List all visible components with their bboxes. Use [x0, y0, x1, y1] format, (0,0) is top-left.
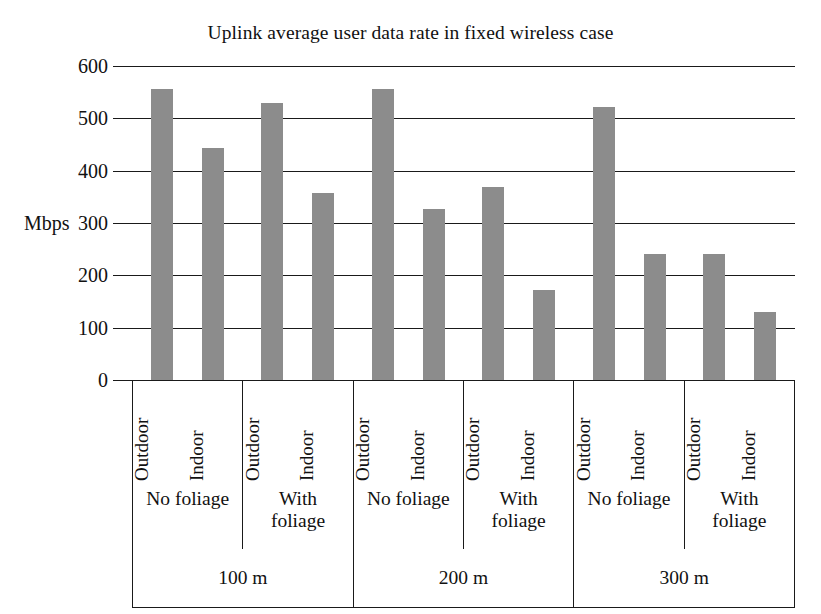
gridline: [132, 66, 795, 67]
y-axis-tick-label: 0: [98, 370, 108, 390]
category-axis-table: OutdoorIndoorOutdoorIndoorOutdoorIndoorO…: [132, 380, 795, 608]
gridline: [132, 328, 795, 329]
foliage-label: No foliage: [588, 488, 671, 510]
y-axis-tick-label: 400: [78, 161, 108, 181]
location-cell: Outdoor: [684, 381, 740, 485]
location-cell: Indoor: [519, 381, 574, 485]
location-label: Indoor: [518, 430, 537, 481]
y-axis-tick: [113, 380, 132, 381]
location-label: Outdoor: [574, 418, 593, 481]
bar: [312, 193, 334, 380]
bar: [423, 209, 445, 380]
bar: [593, 107, 615, 380]
location-cell: Outdoor: [133, 381, 188, 485]
bar: [372, 89, 394, 380]
location-label: Indoor: [297, 430, 316, 481]
y-axis-tick-label: 600: [78, 56, 108, 76]
location-cell: Outdoor: [242, 381, 298, 485]
gridline: [132, 171, 795, 172]
location-label: Indoor: [408, 430, 427, 481]
distance-cell: 300 m: [573, 549, 794, 607]
bar: [151, 89, 173, 380]
bar: [754, 312, 776, 380]
distance-cell: 100 m: [133, 549, 353, 607]
location-cell: Indoor: [408, 381, 463, 485]
location-label: Outdoor: [353, 418, 372, 481]
y-axis-tick: [113, 118, 132, 119]
plot-area: [132, 66, 795, 380]
foliage-label: With foliage: [696, 488, 782, 532]
location-cell: Indoor: [298, 381, 353, 485]
location-label: Indoor: [187, 430, 206, 481]
bar: [703, 254, 725, 380]
y-axis-tick: [113, 66, 132, 67]
bar: [261, 103, 283, 380]
location-label: Outdoor: [132, 418, 151, 481]
foliage-cell: With foliage: [463, 485, 573, 549]
y-axis-tick: [113, 328, 132, 329]
location-label: Indoor: [739, 430, 758, 481]
location-label: Outdoor: [463, 418, 482, 481]
y-axis-tick-labels: Mbps 0100200300400500600: [0, 66, 108, 380]
y-axis-unit-label: Mbps: [24, 213, 70, 233]
location-label: Outdoor: [684, 418, 703, 481]
bar: [482, 187, 504, 380]
y-axis-tick-label: 200: [78, 265, 108, 285]
foliage-label: With foliage: [255, 488, 341, 532]
distance-label-row: 100 m200 m300 m: [133, 549, 794, 607]
foliage-cell: With foliage: [242, 485, 352, 549]
location-label: Indoor: [628, 430, 647, 481]
gridline: [132, 223, 795, 224]
chart-title: Uplink average user data rate in fixed w…: [0, 22, 821, 44]
bar: [533, 290, 555, 380]
y-axis-tick-label: 500: [78, 108, 108, 128]
location-label: Outdoor: [243, 418, 262, 481]
location-cell: Outdoor: [573, 381, 629, 485]
location-cell: Indoor: [629, 381, 684, 485]
foliage-cell: No foliage: [573, 485, 683, 549]
foliage-cell: No foliage: [133, 485, 242, 549]
location-label-row: OutdoorIndoorOutdoorIndoorOutdoorIndoorO…: [133, 381, 794, 485]
distance-label: 300 m: [660, 568, 709, 588]
y-axis-tick: [113, 171, 132, 172]
location-cell: Outdoor: [463, 381, 519, 485]
location-cell: Indoor: [739, 381, 794, 485]
bar: [644, 254, 666, 380]
foliage-label-row: No foliageWith foliageNo foliageWith fol…: [133, 485, 794, 549]
y-axis-tick: [113, 223, 132, 224]
distance-cell: 200 m: [353, 549, 574, 607]
distance-label: 200 m: [439, 568, 488, 588]
foliage-label: No foliage: [146, 488, 229, 510]
y-axis-tick-label: 300: [78, 213, 108, 233]
distance-label: 100 m: [218, 568, 267, 588]
gridline: [132, 118, 795, 119]
location-cell: Indoor: [188, 381, 243, 485]
y-axis-tick-label: 100: [78, 318, 108, 338]
foliage-label: No foliage: [367, 488, 450, 510]
foliage-cell: With foliage: [684, 485, 794, 549]
gridline: [132, 275, 795, 276]
y-axis-tick: [113, 275, 132, 276]
bar: [202, 148, 224, 380]
location-cell: Outdoor: [353, 381, 409, 485]
foliage-cell: No foliage: [353, 485, 463, 549]
foliage-label: With foliage: [476, 488, 562, 532]
bar-chart-figure: Uplink average user data rate in fixed w…: [0, 0, 821, 614]
